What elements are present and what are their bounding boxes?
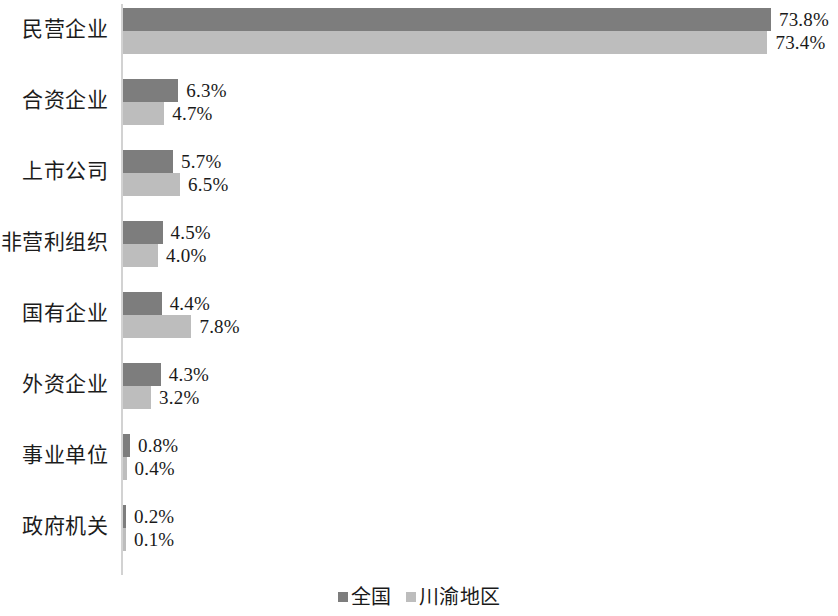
bar-value-label: 0.2% — [134, 507, 174, 527]
bar-value-label: 4.5% — [171, 223, 211, 243]
bar-row: 合资企业6.3%4.7% — [0, 75, 838, 146]
category-label: 民营企业 — [0, 17, 108, 41]
bar-value-label: 4.3% — [169, 365, 209, 385]
bar-row: 外资企业4.3%3.2% — [0, 359, 838, 430]
category-label: 上市公司 — [0, 159, 108, 183]
bar-segment[interactable] — [123, 150, 173, 173]
bar-row: 民营企业73.8%73.4% — [0, 4, 838, 75]
legend-swatch-icon — [406, 592, 416, 602]
category-label: 国有企业 — [0, 301, 108, 325]
bar-value-label: 0.1% — [134, 530, 174, 550]
bar-value-label: 0.8% — [138, 436, 178, 456]
bar-group: 4.4%7.8% — [123, 288, 838, 359]
bar-value-label: 7.8% — [199, 317, 239, 337]
bar-segment[interactable] — [123, 31, 767, 54]
bar-chart: 民营企业73.8%73.4%合资企业6.3%4.7%上市公司5.7%6.5%非营… — [0, 0, 838, 616]
bar-row: 国有企业4.4%7.8% — [0, 288, 838, 359]
bar-segment[interactable] — [123, 528, 126, 551]
bar-segment[interactable] — [123, 292, 162, 315]
bar-segment[interactable] — [123, 386, 151, 409]
bar-value-label: 4.4% — [170, 294, 210, 314]
bar-segment[interactable] — [123, 79, 178, 102]
plot-area: 民营企业73.8%73.4%合资企业6.3%4.7%上市公司5.7%6.5%非营… — [0, 0, 838, 578]
legend-label: 川渝地区 — [419, 586, 501, 608]
bar-row: 事业单位0.8%0.4% — [0, 430, 838, 501]
bar-group: 73.8%73.4% — [123, 4, 838, 75]
category-label: 外资企业 — [0, 372, 108, 396]
category-label: 合资企业 — [0, 88, 108, 112]
legend-item[interactable]: 全国 — [338, 586, 392, 608]
chart-legend: 全国川渝地区 — [0, 586, 838, 608]
bar-segment[interactable] — [123, 8, 771, 31]
bar-group: 4.5%4.0% — [123, 217, 838, 288]
bar-segment[interactable] — [123, 102, 164, 125]
bar-segment[interactable] — [123, 221, 163, 244]
bar-segment[interactable] — [123, 244, 158, 267]
bar-row: 上市公司5.7%6.5% — [0, 146, 838, 217]
bar-value-label: 73.8% — [779, 10, 829, 30]
bar-row: 政府机关0.2%0.1% — [0, 501, 838, 572]
bar-segment[interactable] — [123, 173, 180, 196]
bar-segment[interactable] — [123, 315, 191, 338]
bar-group: 4.3%3.2% — [123, 359, 838, 430]
bar-group: 0.8%0.4% — [123, 430, 838, 501]
category-label: 非营利组织 — [0, 230, 108, 254]
bar-value-label: 0.4% — [135, 459, 175, 479]
bar-row: 非营利组织4.5%4.0% — [0, 217, 838, 288]
bar-segment[interactable] — [123, 505, 126, 528]
legend-label: 全国 — [351, 586, 392, 608]
bar-group: 6.3%4.7% — [123, 75, 838, 146]
legend-item[interactable]: 川渝地区 — [406, 586, 501, 608]
bar-group: 5.7%6.5% — [123, 146, 838, 217]
bar-value-label: 3.2% — [159, 388, 199, 408]
bar-value-label: 5.7% — [181, 152, 221, 172]
bar-value-label: 4.0% — [166, 246, 206, 266]
category-label: 政府机关 — [0, 514, 108, 538]
bar-segment[interactable] — [123, 363, 161, 386]
bar-value-label: 6.5% — [188, 175, 228, 195]
bar-segment[interactable] — [123, 434, 130, 457]
legend-swatch-icon — [338, 592, 348, 602]
bar-group: 0.2%0.1% — [123, 501, 838, 572]
category-label: 事业单位 — [0, 443, 108, 467]
bar-value-label: 6.3% — [186, 81, 226, 101]
bar-value-label: 73.4% — [775, 33, 825, 53]
bar-segment[interactable] — [123, 457, 127, 480]
bar-value-label: 4.7% — [172, 104, 212, 124]
